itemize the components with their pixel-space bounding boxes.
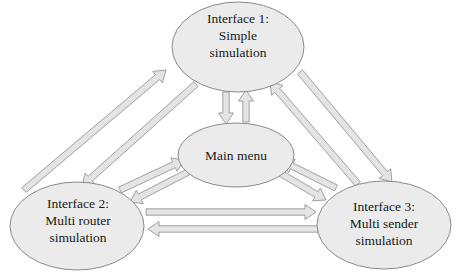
interface-3-title: Interface 3: [353,199,415,214]
arrow-interface1-to-main-icon [219,92,234,124]
interface-1-subtitle-2: simulation [210,45,267,60]
node-interface-2[interactable]: Interface 2: Multi router simulation [10,182,144,270]
interface-1-subtitle: Simple [219,28,257,43]
interface-2-title: Interface 2: [47,196,109,211]
interface-3-subtitle-2: simulation [356,233,413,248]
arrow-main-to-interface1-icon [239,90,254,122]
node-interface-3[interactable]: Interface 3: Multi sender simulation [317,181,451,269]
arrow-interface1-to-interface2-icon [82,82,198,186]
arrow-interface3-to-interface2-icon [148,222,318,237]
node-main-menu[interactable]: Main menu [178,123,294,187]
interface-3-subtitle: Multi sender [350,216,419,231]
interface-2-subtitle-2: simulation [50,230,107,245]
interface-1-title: Interface 1: [207,11,269,26]
interface-2-subtitle: Multi router [45,213,111,228]
arrow-interface2-to-interface3-icon [146,205,316,220]
node-interface-1[interactable]: Interface 1: Simple simulation [172,2,304,92]
navigation-diagram: Interface 1: Simple simulation Main menu… [0,0,472,273]
main-menu-label: Main menu [205,148,267,163]
